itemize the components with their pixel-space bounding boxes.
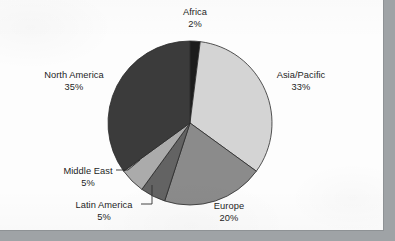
pie-label-middle-east-value: 5% bbox=[63, 178, 112, 190]
pie-label-asia-pacific-name: Asia/Pacific bbox=[277, 70, 326, 80]
pie-slices bbox=[108, 41, 272, 205]
pie-label-middle-east-name: Middle East bbox=[63, 166, 112, 176]
pie-label-north-america-name: North America bbox=[44, 70, 104, 80]
pie-label-latin-america-value: 5% bbox=[76, 212, 133, 224]
pie-label-europe: Europe 20% bbox=[214, 201, 244, 224]
pie-label-europe-name: Europe bbox=[214, 201, 244, 211]
pie-label-europe-value: 20% bbox=[214, 213, 244, 225]
pie-label-north-america: North America 35% bbox=[44, 70, 104, 93]
pie-label-africa-value: 2% bbox=[183, 19, 207, 31]
pie-label-africa-name: Africa bbox=[183, 7, 207, 17]
pie-label-africa: Africa 2% bbox=[183, 7, 207, 30]
pie-chart bbox=[0, 0, 384, 231]
pie-label-latin-america-name: Latin America bbox=[76, 200, 133, 210]
pie-label-latin-america: Latin America 5% bbox=[76, 200, 133, 223]
pie-label-middle-east: Middle East 5% bbox=[63, 166, 112, 189]
pie-label-asia-pacific: Asia/Pacific 33% bbox=[277, 70, 326, 93]
pie-label-north-america-value: 35% bbox=[44, 82, 104, 94]
figure-page: Africa 2% Asia/Pacific 33% Europe 20% La… bbox=[0, 0, 384, 231]
pie-label-asia-pacific-value: 33% bbox=[277, 82, 326, 94]
